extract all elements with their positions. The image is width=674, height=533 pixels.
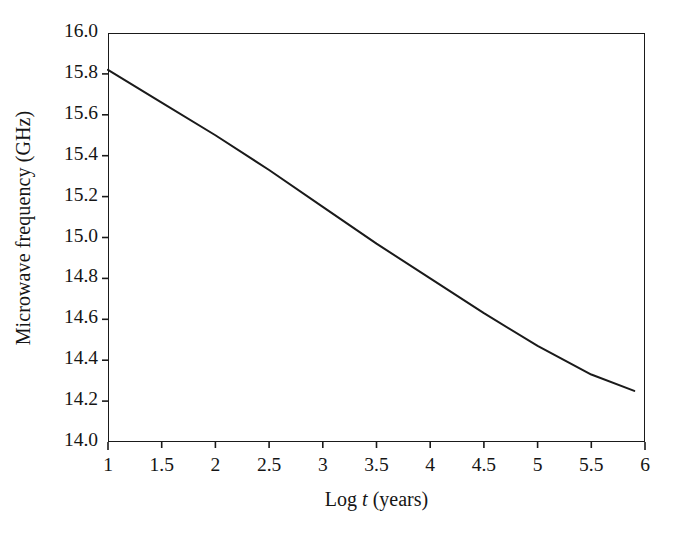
y-tick-label: 15.4 [64,143,98,165]
x-tick-label: 5.5 [579,454,603,476]
x-tick-label: 4.5 [472,454,496,476]
figure-canvas: Microwave frequency (GHz) 14.014.214.414… [0,0,674,533]
y-axis-title: Microwave frequency (GHz) [8,8,38,448]
y-tick-label: 14.2 [64,388,98,410]
x-tick-label: 5 [533,454,543,476]
x-title-prefix: Log [325,488,362,510]
x-tick-label: 3.5 [364,454,388,476]
x-axis-title: Log t (years) [108,488,645,511]
x-tick-label: 1 [103,454,113,476]
x-tick-label: 1.5 [150,454,174,476]
x-tick-label: 4 [425,454,435,476]
x-tick-label: 6 [640,454,650,476]
y-tick-label: 14.8 [64,265,98,287]
x-tick-label: 2 [211,454,221,476]
y-tick-label: 15.2 [64,184,98,206]
y-tick-label: 14.4 [64,347,98,369]
x-tick-label: 3 [318,454,328,476]
x-axis-tick-marks [108,442,645,450]
x-tick-label: 2.5 [257,454,281,476]
y-tick-label: 14.6 [64,306,98,328]
y-tick-label: 15.8 [64,61,98,83]
x-title-suffix: (years) [368,488,429,510]
y-tick-label: 14.0 [64,429,98,451]
y-tick-label: 15.6 [64,102,98,124]
y-tick-label: 16.0 [64,20,98,42]
y-tick-label: 15.0 [64,225,98,247]
plot-area-frame [108,33,645,442]
